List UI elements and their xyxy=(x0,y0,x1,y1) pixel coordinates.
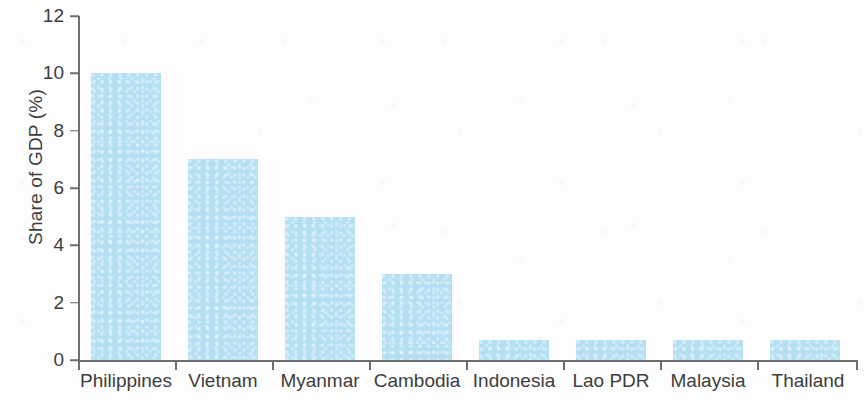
x-category-label-cambodia: Cambodia xyxy=(374,370,461,392)
y-tick-label-8: 8 xyxy=(24,120,64,142)
y-tick-label-12: 12 xyxy=(24,5,64,27)
y-tick-label-10: 10 xyxy=(24,62,64,84)
x-tick-mark-2 xyxy=(272,361,274,370)
bar-philippines[interactable] xyxy=(91,73,161,360)
x-category-label-philippines: Philippines xyxy=(80,370,172,392)
x-tick-mark-5 xyxy=(563,361,565,370)
x-category-label-vietnam: Vietnam xyxy=(188,370,257,392)
x-category-label-malaysia: Malaysia xyxy=(671,370,746,392)
x-tick-mark-1 xyxy=(175,361,177,370)
bar-chart-figure: Share of GDP (%) 0 2 4 6 8 10 12 Philipp… xyxy=(0,0,864,409)
x-tick-mark-6 xyxy=(660,361,662,370)
bar-malaysia[interactable] xyxy=(673,340,743,360)
bar-lao-pdr[interactable] xyxy=(576,340,646,360)
x-category-label-thailand: Thailand xyxy=(772,370,845,392)
y-tick-label-0: 0 xyxy=(24,349,64,371)
x-category-label-indonesia: Indonesia xyxy=(473,370,555,392)
x-tick-mark-3 xyxy=(369,361,371,370)
y-tick-label-2: 2 xyxy=(24,292,64,314)
bar-cambodia[interactable] xyxy=(382,274,452,360)
plot-area xyxy=(78,16,858,360)
x-tick-mark-0 xyxy=(78,361,80,370)
x-axis-line xyxy=(78,360,858,362)
bar-myanmar[interactable] xyxy=(285,217,355,360)
x-category-label-lao-pdr: Lao PDR xyxy=(572,370,649,392)
x-tick-mark-7 xyxy=(757,361,759,370)
x-category-label-myanmar: Myanmar xyxy=(280,370,359,392)
x-tick-mark-4 xyxy=(466,361,468,370)
y-tick-label-6: 6 xyxy=(24,177,64,199)
y-tick-label-4: 4 xyxy=(24,234,64,256)
bar-indonesia[interactable] xyxy=(479,340,549,360)
bar-thailand[interactable] xyxy=(770,340,840,360)
x-tick-mark-8 xyxy=(856,361,858,370)
bar-vietnam[interactable] xyxy=(188,159,258,360)
